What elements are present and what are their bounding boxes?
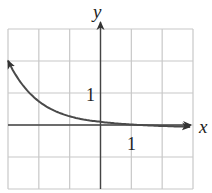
x-tick-label: 1 [127,134,136,154]
axes [8,22,191,189]
graph: y x 1 1 [0,0,212,193]
y-axis-label: y [91,1,102,22]
x-axis-label: x [198,116,208,137]
y-tick-label: 1 [86,85,95,105]
